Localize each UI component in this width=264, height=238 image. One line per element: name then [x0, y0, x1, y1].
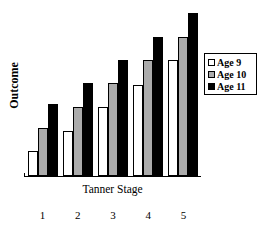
bar-age-11-stage-3 [118, 60, 128, 176]
y-axis-title: Outcome [7, 49, 22, 123]
x-tick-label-4: 4 [131, 209, 165, 221]
x-tick-label-5: 5 [166, 209, 200, 221]
bar-group [63, 6, 93, 176]
legend-label: Age 9 [217, 57, 241, 68]
bar-age-11-stage-4 [153, 37, 163, 176]
plot-area [24, 6, 200, 176]
y-axis-origin-tick [24, 173, 25, 177]
bar-age-10-stage-3 [108, 83, 118, 176]
bar-group [28, 6, 58, 176]
x-tick-label-2: 2 [61, 209, 95, 221]
bar-group [98, 6, 128, 176]
bar-age-9-stage-4 [133, 85, 143, 176]
bar-age-11-stage-1 [48, 104, 58, 176]
gray-square-swatch [208, 71, 215, 78]
bar-age-9-stage-3 [98, 107, 108, 176]
bar-chart: Outcome Tanner Stage 12345 Age 9Age 10Ag… [0, 0, 264, 238]
white-square-swatch [208, 59, 215, 66]
bar-age-9-stage-5 [168, 60, 178, 176]
bar-age-10-stage-4 [143, 60, 153, 176]
legend-label: Age 10 [217, 69, 246, 80]
bar-age-11-stage-2 [83, 83, 93, 176]
x-axis-tick-labels: 12345 [24, 209, 201, 227]
legend-item-age-11: Age 11 [208, 80, 254, 92]
chart-legend: Age 9Age 10Age 11 [204, 53, 257, 95]
bar-age-11-stage-5 [188, 13, 198, 176]
legend-label: Age 11 [217, 81, 246, 92]
x-tick-label-1: 1 [26, 209, 60, 221]
x-axis-line [24, 176, 201, 177]
black-square-swatch [208, 83, 215, 90]
legend-item-age-9: Age 9 [208, 56, 254, 68]
bar-group [168, 6, 198, 176]
legend-item-age-10: Age 10 [208, 68, 254, 80]
x-axis-title: Tanner Stage [24, 183, 201, 195]
bar-age-10-stage-5 [178, 37, 188, 176]
bar-age-9-stage-2 [63, 131, 73, 176]
bar-age-10-stage-2 [73, 107, 83, 176]
x-tick-label-3: 3 [96, 209, 130, 221]
bar-age-10-stage-1 [38, 128, 48, 176]
bar-group [133, 6, 163, 176]
bar-age-9-stage-1 [28, 151, 38, 176]
